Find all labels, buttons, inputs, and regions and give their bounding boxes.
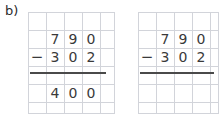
- minus-sign-icon: −: [138, 48, 156, 66]
- minuend-digit-hundreds: 7: [156, 30, 174, 48]
- difference-digit-hundreds[interactable]: 4: [46, 84, 64, 102]
- grid-line-h: [28, 102, 115, 103]
- subtrahend-digit-ones: 2: [82, 48, 100, 66]
- grid-line-h: [28, 66, 115, 67]
- subtrahend-row-left: − 3 0 2: [28, 48, 100, 66]
- subtrahend-digit-ones: 2: [192, 48, 210, 66]
- answer-rule-left: [30, 72, 106, 74]
- grid-line-v: [114, 12, 115, 114]
- grid-line-v: [218, 12, 219, 114]
- grid-line-h: [138, 12, 219, 13]
- grid-line-h: [138, 66, 219, 67]
- grid-line-h: [28, 113, 115, 114]
- difference-digit-tens[interactable]: 0: [64, 84, 82, 102]
- operator-slot-empty: [138, 30, 156, 48]
- difference-slot-empty: [138, 84, 156, 102]
- operator-slot-empty: [28, 30, 46, 48]
- subtrahend-digit-tens: 0: [64, 48, 82, 66]
- minuend-row-left: 7 9 0: [28, 30, 100, 48]
- minuend-digit-tens: 9: [64, 30, 82, 48]
- minuend-digit-hundreds: 7: [46, 30, 64, 48]
- subtrahend-digit-hundreds: 3: [46, 48, 64, 66]
- subtrahend-row-right: − 3 0 2: [138, 48, 210, 66]
- difference-digit-ones[interactable]: 0: [82, 84, 100, 102]
- answer-rule-right: [140, 72, 214, 74]
- minuend-row-right: 7 9 0: [138, 30, 210, 48]
- grid-line-h: [138, 113, 219, 114]
- minus-sign-icon: −: [28, 48, 46, 66]
- minuend-digit-tens: 9: [174, 30, 192, 48]
- difference-digit-ones[interactable]: [192, 84, 210, 102]
- difference-row-left: 4 0 0: [28, 84, 100, 102]
- subtrahend-digit-hundreds: 3: [156, 48, 174, 66]
- grid-line-v: [210, 12, 211, 114]
- worksheet-canvas: b) 7 9 0 − 3 0: [0, 0, 222, 121]
- difference-row-right: [138, 84, 210, 102]
- minuend-digit-ones: 0: [82, 30, 100, 48]
- difference-slot-empty: [28, 84, 46, 102]
- grid-line-h: [28, 12, 115, 13]
- minuend-digit-ones: 0: [192, 30, 210, 48]
- subtrahend-digit-tens: 0: [174, 48, 192, 66]
- grid-line-h: [138, 102, 219, 103]
- grid-line-v: [100, 12, 101, 114]
- difference-digit-hundreds[interactable]: [156, 84, 174, 102]
- exercise-label: b): [5, 4, 18, 18]
- difference-digit-tens[interactable]: [174, 84, 192, 102]
